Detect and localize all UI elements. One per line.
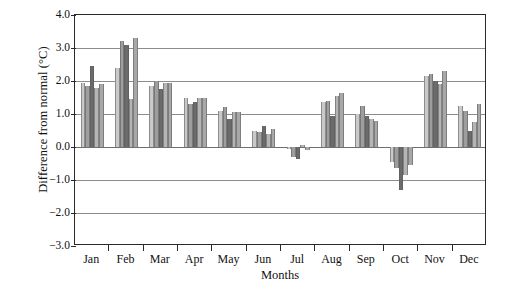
y-tick-label: −2.0 bbox=[26, 206, 70, 218]
bar-group bbox=[418, 15, 452, 244]
bar-group bbox=[75, 15, 109, 244]
y-tick-mark bbox=[71, 81, 76, 82]
bar-group bbox=[144, 15, 178, 244]
bar bbox=[374, 121, 379, 147]
bar bbox=[168, 83, 173, 147]
bar bbox=[202, 98, 207, 148]
bar-group bbox=[315, 15, 349, 244]
x-tick-label: Feb bbox=[108, 251, 142, 267]
x-tick-label: Jul bbox=[280, 251, 314, 267]
x-tick-label: May bbox=[211, 251, 245, 267]
bar-group bbox=[281, 15, 315, 244]
bar bbox=[442, 71, 447, 147]
x-tick-label: Nov bbox=[417, 251, 451, 267]
x-tick-label: Dec bbox=[452, 251, 486, 267]
bar-groups bbox=[75, 15, 485, 244]
bar-group bbox=[109, 15, 143, 244]
y-tick-label: 0.0 bbox=[26, 140, 70, 152]
bar bbox=[408, 147, 413, 165]
plot-area bbox=[74, 14, 486, 245]
x-tick-label: Mar bbox=[143, 251, 177, 267]
bar-group bbox=[384, 15, 418, 244]
y-tick-label: 4.0 bbox=[26, 8, 70, 20]
y-axis-tick-labels: 4.03.02.01.00.0−1.0−2.0−3.0 bbox=[26, 8, 70, 252]
y-tick-label: 2.0 bbox=[26, 74, 70, 86]
bar bbox=[99, 84, 104, 147]
bar-group bbox=[453, 15, 487, 244]
bar-group bbox=[247, 15, 281, 244]
y-tick-label: 1.0 bbox=[26, 107, 70, 119]
bar-chart-figure: Difference from normal (°C) 4.03.02.01.0… bbox=[0, 0, 525, 290]
bar bbox=[133, 38, 138, 147]
y-tick-mark bbox=[71, 213, 76, 214]
y-tick-mark bbox=[71, 147, 76, 148]
y-tick-mark bbox=[71, 48, 76, 49]
y-tick-mark bbox=[71, 15, 76, 16]
x-tick-label: Jan bbox=[74, 251, 108, 267]
x-tick-label: Oct bbox=[383, 251, 417, 267]
bar bbox=[271, 129, 276, 147]
y-tick-label: −3.0 bbox=[26, 239, 70, 251]
bar bbox=[296, 147, 301, 159]
y-tick-label: −1.0 bbox=[26, 173, 70, 185]
bar-group bbox=[212, 15, 246, 244]
bar-group bbox=[178, 15, 212, 244]
bar bbox=[477, 104, 482, 147]
bar bbox=[305, 147, 310, 150]
bar bbox=[339, 93, 344, 147]
y-tick-mark bbox=[71, 114, 76, 115]
x-tick-label: Apr bbox=[177, 251, 211, 267]
bar-group bbox=[350, 15, 384, 244]
x-tick-label: Aug bbox=[314, 251, 348, 267]
bar bbox=[236, 112, 241, 147]
y-tick-mark bbox=[71, 180, 76, 181]
x-axis-title: Months bbox=[74, 268, 486, 283]
x-tick-label: Sep bbox=[349, 251, 383, 267]
x-axis-tick-labels: JanFebMarAprMayJunJulAugSepOctNovDec bbox=[74, 251, 486, 269]
y-tick-label: 3.0 bbox=[26, 41, 70, 53]
x-tick-label: Jun bbox=[246, 251, 280, 267]
